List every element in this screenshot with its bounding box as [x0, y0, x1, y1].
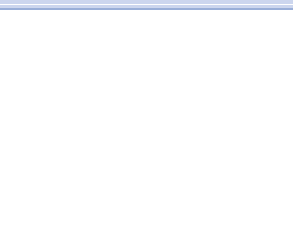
donut-chart [0, 0, 293, 240]
chart-figure [0, 0, 293, 240]
